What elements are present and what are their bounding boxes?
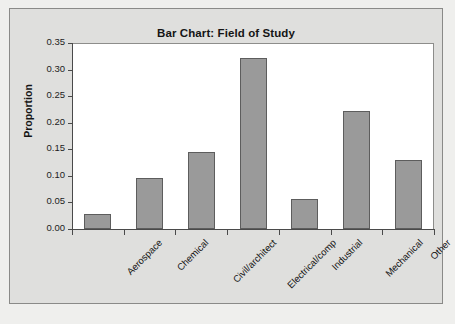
bar — [136, 178, 163, 229]
y-axis-tick: 0.15 — [10, 149, 72, 150]
x-tick-mark — [434, 230, 435, 235]
y-tick-mark — [68, 96, 72, 97]
x-tick-mark — [279, 230, 280, 235]
x-tick-mark — [331, 230, 332, 235]
y-axis-tick: 0.35 — [10, 43, 72, 44]
y-axis-title: Proportion — [22, 81, 34, 141]
y-tick-label: 0.35 — [47, 36, 66, 47]
x-tick-mark — [124, 230, 125, 235]
chart-panel: Bar Chart: Field of Study Proportion 0.0… — [9, 8, 443, 304]
x-tick-mark — [175, 230, 176, 235]
y-tick-label: 0.20 — [47, 116, 66, 127]
y-axis-tick: 0.30 — [10, 70, 72, 71]
y-axis-tick: 0.20 — [10, 123, 72, 124]
y-tick-label: 0.10 — [47, 169, 66, 180]
x-tick-mark — [382, 230, 383, 235]
y-tick-label: 0.15 — [47, 142, 66, 153]
y-tick-mark — [68, 202, 72, 203]
chart-title: Bar Chart: Field of Study — [10, 27, 442, 39]
y-tick-mark — [68, 70, 72, 71]
x-axis-line — [72, 229, 435, 230]
y-tick-label: 0.30 — [47, 63, 66, 74]
screenshot-root: Bar Chart: Field of Study Proportion 0.0… — [0, 0, 455, 324]
x-tick-mark — [72, 230, 73, 235]
bar — [188, 152, 215, 229]
bar — [395, 160, 422, 229]
x-axis-category-label: Mechanical — [383, 237, 425, 279]
y-axis-tick: 0.10 — [10, 176, 72, 177]
y-axis-tick: 0.25 — [10, 96, 72, 97]
x-axis-category-label: Other — [428, 237, 453, 262]
y-tick-label: 0.05 — [47, 195, 66, 206]
bar — [240, 58, 267, 229]
x-axis-category-label: Civil/architect — [231, 237, 279, 285]
x-axis-category-label: Aerospace — [124, 237, 164, 277]
y-tick-mark — [68, 123, 72, 124]
x-tick-mark — [227, 230, 228, 235]
y-tick-label: 0.00 — [47, 222, 66, 233]
y-axis-tick: 0.05 — [10, 202, 72, 203]
y-tick-mark — [68, 176, 72, 177]
y-axis-tick: 0.00 — [10, 229, 72, 230]
y-axis-line — [72, 43, 73, 230]
x-axis-category-label: Chemical — [174, 237, 210, 273]
bar — [291, 199, 318, 229]
y-tick-mark — [68, 43, 72, 44]
bar — [84, 214, 111, 229]
y-tick-mark — [68, 149, 72, 150]
y-tick-label: 0.25 — [47, 89, 66, 100]
bar — [343, 111, 370, 229]
